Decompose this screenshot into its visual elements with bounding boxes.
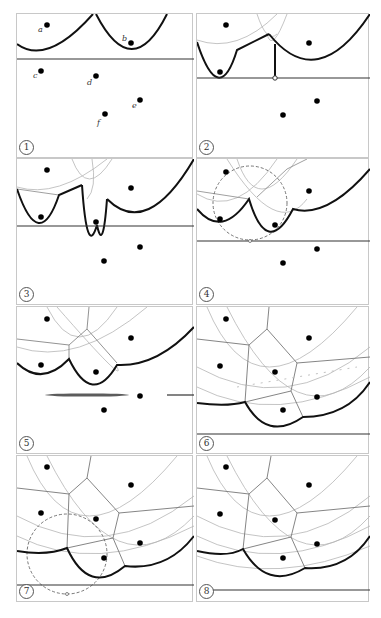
sweep-line [45, 393, 129, 396]
diagram-step-8 [197, 456, 370, 603]
panel-step-3: 3 [16, 158, 193, 305]
diagram-step-3 [17, 159, 194, 306]
panel-step-2: 2 [196, 13, 369, 158]
site-label-b: b [122, 34, 127, 43]
panel-step-1: a b c d e f 1 [16, 13, 193, 158]
step-number-badge: 4 [199, 287, 214, 302]
diagram-step-6 [197, 307, 370, 455]
site-label-d: d [87, 78, 92, 87]
site-label-e: e [132, 101, 137, 110]
diagram-step-5 [17, 307, 194, 455]
step-number-badge: 8 [199, 584, 214, 599]
step-number-badge: 7 [19, 584, 34, 599]
site-label-c: c [33, 71, 38, 80]
diagram-step-7 [17, 456, 194, 603]
panel-step-6: 6 [196, 306, 369, 454]
step-number-badge: 5 [19, 436, 34, 451]
panel-step-5: 5 [16, 306, 193, 454]
diagram-step-1: a b c d e f [17, 14, 194, 159]
step-number-badge: 2 [199, 140, 214, 155]
step-number-badge: 1 [19, 140, 34, 155]
diagram-step-2 [197, 14, 370, 159]
step-number-badge: 3 [19, 287, 34, 302]
step-number-badge: 6 [199, 436, 214, 451]
panel-step-8: 8 [196, 455, 369, 602]
site-label-a: a [38, 25, 43, 34]
voronoi-edges [197, 307, 370, 417]
panel-step-7: 7 [16, 455, 193, 602]
site-label-f: f [96, 118, 102, 127]
panel-step-4: 4 [196, 158, 369, 305]
diagram-step-4 [197, 159, 370, 306]
